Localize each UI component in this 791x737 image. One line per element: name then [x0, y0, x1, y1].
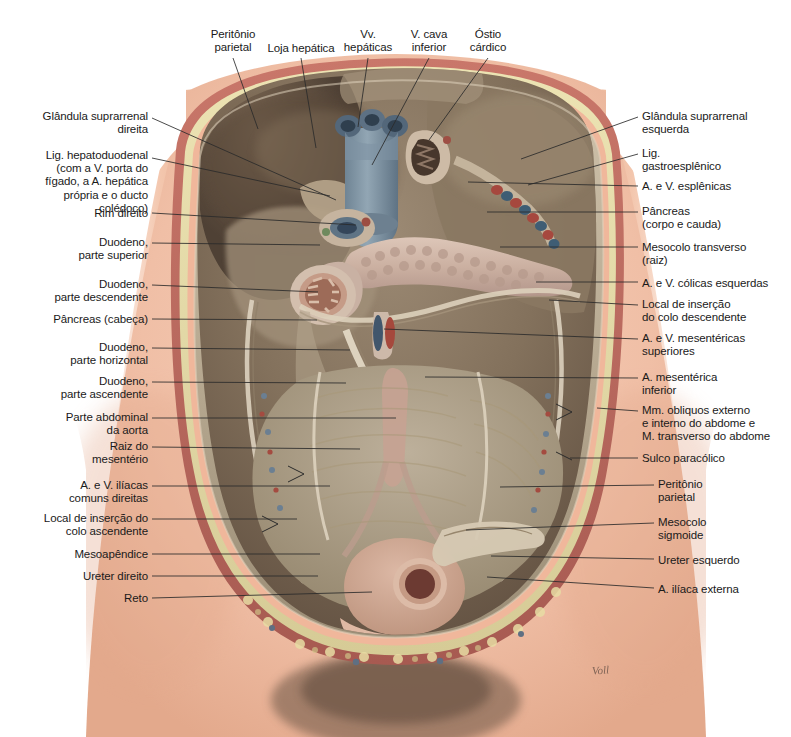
label-glandula-suprarrenal-esquerda: Glândula suprarrenal esquerda	[642, 110, 747, 136]
anatomy-figure: Peritônio parietalLoja hepáticaVv. hepát…	[0, 0, 791, 737]
label-ureter-esquerdo: Ureter esquerdo	[658, 554, 740, 567]
label-lig-gastroesplenico: Lig. gastroesplênico	[642, 147, 721, 173]
label-mesoapendice: Mesoapêndice	[74, 548, 148, 561]
label-a-mesenterica-inferior: A. mesentérica inferior	[642, 371, 717, 397]
porta-hepatis	[319, 209, 375, 247]
label-peritonio-parietal-inf: Peritônio parietal	[658, 478, 703, 504]
label-ostio-cardico: Óstio cárdico	[459, 28, 517, 54]
label-loja-hepatica: Loja hepática	[258, 42, 344, 55]
label-parte-abdominal-aorta: Parte abdominal da aorta	[66, 411, 148, 437]
label-glandula-suprarrenal-direita: Glândula suprarrenal direita	[43, 110, 148, 136]
label-mesocolo-transverso-raiz: Mesocolo transverso (raiz)	[642, 241, 746, 267]
label-mesocolo-sigmoide: Mesocolo sigmoide	[658, 516, 706, 542]
cardiac-orifice	[406, 130, 451, 184]
label-a-v-mesentericas-superiores: A. e V. mesentéricas superiores	[642, 332, 745, 358]
label-rim-direito: Rim direito	[94, 207, 148, 220]
label-a-iliaca-externa: A. ilíaca externa	[658, 583, 739, 596]
label-pancreas-corpo-cauda: Pâncreas (corpo e cauda)	[642, 205, 721, 231]
label-a-v-iliacas-comuns-direitas: A. e V. ilíacas comuns direitas	[69, 479, 148, 505]
label-reto: Reto	[124, 592, 148, 605]
label-v-cava-inferior: V. cava inferior	[398, 28, 460, 54]
label-mm-obliquos-transverso: Mm. obliquos externo e interno do abdome…	[642, 404, 770, 444]
artist-signature: Voll	[592, 663, 610, 676]
label-vv-hepaticas: Vv. hepáticas	[338, 28, 398, 54]
label-pancreas-cabeca: Pâncreas (cabeça)	[53, 313, 148, 326]
label-duodeno-parte-horizontal: Duodeno, parte horizontal	[70, 341, 148, 367]
label-duodeno-parte-ascendente: Duodeno, parte ascendente	[61, 375, 148, 401]
label-a-v-esplenicas: A. e V. esplênicas	[642, 180, 731, 193]
label-raiz-do-mesenterio: Raiz do mesentério	[92, 440, 148, 466]
label-a-v-colicas-esquerdas: A. e V. cólicas esquerdas	[642, 277, 768, 290]
label-sulco-paracolico: Sulco paracólico	[642, 452, 725, 465]
label-ureter-direito: Ureter direito	[83, 570, 148, 583]
label-lig-hepatoduodenal: Lig. hepatoduodenal (com a V. porta do f…	[45, 149, 148, 215]
label-duodeno-parte-descendente: Duodeno, parte descendente	[54, 278, 148, 304]
label-local-insercao-colo-ascendente: Local de inserção do colo ascendente	[44, 512, 148, 538]
label-local-insercao-colo-descendente: Local de inserção do colo descendente	[642, 298, 746, 324]
superior-mesenteric-vessels	[373, 312, 396, 359]
label-duodeno-parte-superior: Duodeno, parte superior	[78, 236, 148, 262]
